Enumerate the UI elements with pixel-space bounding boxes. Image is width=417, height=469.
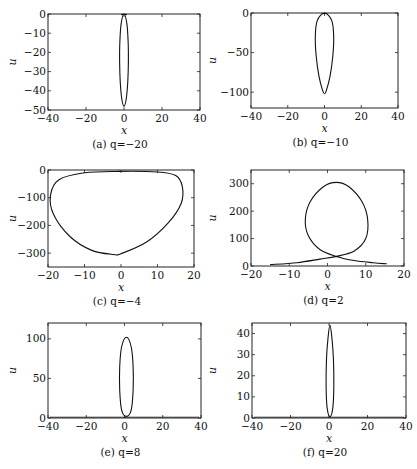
x-tick-label: 0	[321, 110, 328, 122]
x-tick-label: 20	[155, 112, 168, 124]
y-tick-label: 100	[229, 232, 249, 244]
y-tick-label: −100	[220, 86, 249, 98]
y-tick-label: −20	[24, 46, 46, 58]
x-tick-label: 40	[391, 110, 404, 122]
x-axis-label: x	[321, 122, 328, 135]
y-tick-label: 30	[237, 348, 250, 360]
y-tick-label: 20	[237, 369, 250, 381]
x-tick-label: −20	[279, 420, 301, 432]
y-tick-label: −50	[227, 46, 249, 58]
orbit-curve	[120, 14, 129, 106]
orbit-curve	[326, 325, 334, 417]
x-axis-label: x	[118, 281, 125, 294]
orbit-curve	[50, 171, 183, 255]
y-tick-label: 0	[243, 412, 250, 424]
panel-a: −40−20020400−10−20−30−40−50xu(a) q=−20	[6, 8, 207, 151]
x-tick-label: 20	[397, 268, 410, 280]
y-tick-label: 300	[229, 177, 249, 189]
panel-caption: (d) q=2	[303, 294, 343, 306]
y-axis-label: u	[206, 367, 219, 374]
y-tick-label: 50	[33, 372, 46, 384]
y-tick-label: 0	[39, 412, 46, 424]
y-tick-label: −40	[24, 84, 46, 96]
panel-b: −40−20020400−50−100xu(b) q=−10	[206, 7, 405, 149]
panel-caption: (b) q=−10	[293, 136, 349, 148]
y-tick-label: −300	[17, 247, 46, 259]
y-axis-label: u	[6, 58, 19, 65]
x-tick-label: −40	[240, 110, 262, 122]
x-tick-label: 40	[399, 420, 412, 432]
axes-frame	[48, 14, 200, 110]
y-tick-label: 40	[237, 327, 250, 339]
x-tick-label: 20	[361, 420, 374, 432]
x-axis-label: x	[324, 280, 331, 293]
y-tick-label: 0	[39, 164, 46, 176]
panel-c: −20−10010200−100−200−300xu(c) q=−4	[6, 164, 201, 308]
x-tick-label: 10	[151, 269, 164, 281]
y-tick-label: 200	[229, 205, 249, 217]
y-tick-label: 0	[242, 7, 249, 19]
panel-f: −40−2002040010203040xu(f) q=20	[206, 323, 413, 458]
x-axis-label: x	[326, 432, 333, 445]
y-tick-label: −30	[24, 65, 46, 77]
panel-caption: (a) q=−20	[92, 138, 147, 150]
x-tick-label: −20	[277, 110, 299, 122]
x-tick-label: −10	[73, 269, 95, 281]
x-tick-label: 0	[121, 420, 128, 432]
x-tick-label: −10	[278, 268, 300, 280]
orbit-curve	[119, 337, 133, 416]
x-tick-label: 20	[187, 269, 200, 281]
panel-caption: (c) q=−4	[93, 295, 142, 307]
y-axis-label: u	[6, 367, 19, 374]
x-tick-label: −20	[75, 420, 97, 432]
x-tick-label: 40	[194, 420, 207, 432]
y-axis-label: u	[206, 57, 219, 64]
x-tick-label: 40	[193, 112, 206, 124]
x-tick-label: 10	[359, 268, 372, 280]
x-tick-label: 20	[156, 420, 169, 432]
x-tick-label: 20	[355, 110, 368, 122]
x-tick-label: 0	[324, 268, 331, 280]
panel-caption: (f) q=20	[303, 446, 347, 458]
y-tick-label: 10	[237, 390, 250, 402]
axes-frame	[252, 323, 406, 418]
x-axis-label: x	[121, 124, 128, 137]
y-tick-label: 100	[26, 332, 46, 344]
x-tick-label: −20	[37, 269, 59, 281]
y-tick-label: 0	[39, 8, 46, 20]
y-tick-label: −10	[24, 27, 46, 39]
x-tick-label: 0	[118, 269, 125, 281]
y-tick-label: 0	[242, 260, 249, 272]
panel-e: −40−2002040050100xu(e) q=8	[6, 323, 208, 458]
x-tick-label: 0	[121, 112, 128, 124]
panel-caption: (e) q=8	[101, 446, 141, 458]
y-tick-label: −50	[24, 104, 46, 116]
x-tick-label: 0	[326, 420, 333, 432]
y-axis-label: u	[206, 214, 219, 221]
panel-d: −20−10010200100200300xu(d) q=2	[206, 170, 411, 306]
orbit-curve	[270, 182, 387, 264]
y-tick-label: −200	[17, 219, 46, 231]
figure-canvas: −40−20020400−10−20−30−40−50xu(a) q=−20−4…	[0, 0, 417, 469]
y-axis-label: u	[6, 215, 19, 222]
y-tick-label: −100	[17, 191, 46, 203]
x-tick-label: −20	[75, 112, 97, 124]
orbit-curve	[315, 13, 333, 94]
x-axis-label: x	[121, 432, 128, 445]
axes-frame	[48, 323, 201, 418]
